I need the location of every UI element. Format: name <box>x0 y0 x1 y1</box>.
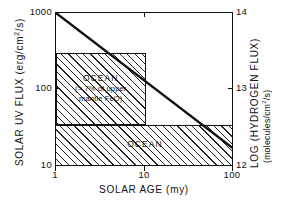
y-left-axis-units-sup: 2 <box>13 31 20 35</box>
ocean-lower-label: OCEAN <box>100 139 190 150</box>
ocean-upper-sub2: mantle FeO) <box>56 94 146 105</box>
ocean-upper-sub1: (= 7% of upper <box>56 84 146 95</box>
y-right-tick-13 <box>228 88 233 89</box>
y-right-tick-label-14: 14 <box>236 6 247 17</box>
y-left-axis-units-post: /s) <box>14 18 25 31</box>
y-left-tick-100 <box>55 88 60 89</box>
y-right-tick-label-13: 13 <box>236 82 247 93</box>
plot-frame: OCEAN (= 7% of upper mantle FeO) OCEAN <box>55 12 233 166</box>
ocean-upper-label: OCEAN (= 7% of upper mantle FeO) <box>56 73 146 105</box>
y-left-tick-label-1000: 1000 <box>8 6 52 17</box>
y-right-axis-title-main: LOG (HYDROGEN FLUX) <box>249 38 260 168</box>
figure-container: OCEAN (= 7% of upper mantle FeO) OCEAN 1… <box>0 0 284 203</box>
y-right-axis-title: LOG (HYDROGEN FLUX) <box>249 38 260 168</box>
ocean-upper-title: OCEAN <box>56 73 146 84</box>
y-left-axis-title-main: SOLAR UV FLUX <box>14 78 25 166</box>
x-axis-title: SOLAR AGE (my) <box>55 184 233 195</box>
y-right-axis-units-pre: (molecules/cm <box>262 104 272 163</box>
y-right-axis-units-sup: 2 <box>261 100 267 104</box>
y-left-axis-title: SOLAR UV FLUX (erg/cm2/s) <box>14 18 25 166</box>
y-left-axis-units-pre: (erg/cm <box>14 36 25 78</box>
x-tick-top-10 <box>144 12 145 17</box>
plot-area: OCEAN (= 7% of upper mantle FeO) OCEAN <box>56 13 232 165</box>
x-tick-label-1: 1 <box>41 169 69 180</box>
x-tick-label-10: 10 <box>130 169 158 180</box>
x-tick-label-100: 100 <box>218 169 246 180</box>
y-right-axis-units-post: /s) <box>262 90 272 100</box>
y-right-axis-units: (molecules/cm2/s) <box>262 90 272 163</box>
